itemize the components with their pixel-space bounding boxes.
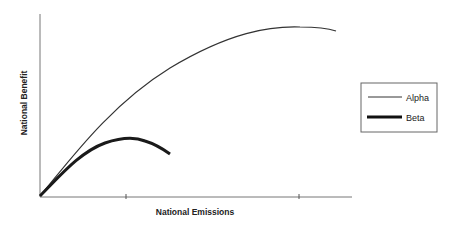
series-beta-line xyxy=(40,139,170,196)
legend: Alpha Beta xyxy=(361,83,437,132)
legend-alpha-label: Alpha xyxy=(406,93,429,103)
x-axis-label: National Emissions xyxy=(156,207,235,217)
y-axis-label: National Benefit xyxy=(19,70,29,135)
legend-beta-label: Beta xyxy=(406,113,425,123)
series-alpha-line xyxy=(40,27,336,196)
line-chart: National Emissions National Benefit Alph… xyxy=(0,0,457,228)
legend-box xyxy=(361,83,437,132)
